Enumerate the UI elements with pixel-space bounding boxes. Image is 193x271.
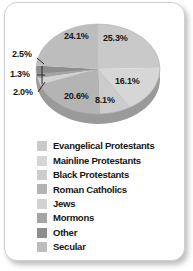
legend-label: Roman Catholics bbox=[53, 185, 127, 195]
legend-label: Mormons bbox=[53, 213, 94, 223]
legend-swatch-icon bbox=[37, 228, 47, 238]
legend-item-mainline-protestants: Mainline Protestants bbox=[37, 153, 182, 167]
legend-item-evangelical-protestants: Evangelical Protestants bbox=[37, 139, 182, 153]
pie-label-mainline-protestants: 16.1% bbox=[115, 76, 140, 86]
pie-chart-svg bbox=[5, 3, 184, 134]
legend-item-secular: Secular bbox=[37, 240, 182, 254]
legend-swatch-icon bbox=[37, 242, 47, 252]
pie-chart: 25.3% 16.1% 8.1% 20.6% 2.0% 1.3% 2.5% 24… bbox=[5, 3, 184, 134]
legend-item-other: Other bbox=[37, 225, 182, 239]
pie-callout-other: 2.5% bbox=[12, 49, 32, 59]
legend-label: Jews bbox=[53, 199, 75, 209]
legend-label: Mainline Protestants bbox=[53, 156, 141, 166]
legend-label: Other bbox=[53, 228, 77, 238]
legend-swatch-icon bbox=[37, 213, 47, 223]
pie-label-roman-catholics: 20.6% bbox=[64, 91, 89, 101]
pie-callout-mormons: 1.3% bbox=[10, 69, 30, 79]
legend-item-jews: Jews bbox=[37, 197, 182, 211]
legend-item-black-protestants: Black Protestants bbox=[37, 168, 182, 182]
pie-label-secular: 24.1% bbox=[64, 31, 89, 41]
legend-label: Black Protestants bbox=[53, 170, 129, 180]
legend-label: Evangelical Protestants bbox=[53, 141, 154, 151]
legend-label: Secular bbox=[53, 242, 86, 252]
legend-swatch-icon bbox=[37, 156, 47, 166]
chart-legend: Evangelical Protestants Mainline Protest… bbox=[37, 139, 182, 254]
chart-card: 25.3% 16.1% 8.1% 20.6% 2.0% 1.3% 2.5% 24… bbox=[4, 2, 185, 261]
legend-swatch-icon bbox=[37, 141, 47, 151]
pie-label-evangelical-protestants: 25.3% bbox=[103, 33, 128, 43]
legend-item-roman-catholics: Roman Catholics bbox=[37, 182, 182, 196]
legend-swatch-icon bbox=[37, 199, 47, 209]
pie-label-black-protestants: 8.1% bbox=[95, 95, 115, 105]
legend-swatch-icon bbox=[37, 170, 47, 180]
pie-callout-jews: 2.0% bbox=[13, 87, 33, 97]
legend-item-mormons: Mormons bbox=[37, 211, 182, 225]
legend-swatch-icon bbox=[37, 184, 47, 194]
pie-slice-evangelical-protestants bbox=[98, 24, 160, 69]
